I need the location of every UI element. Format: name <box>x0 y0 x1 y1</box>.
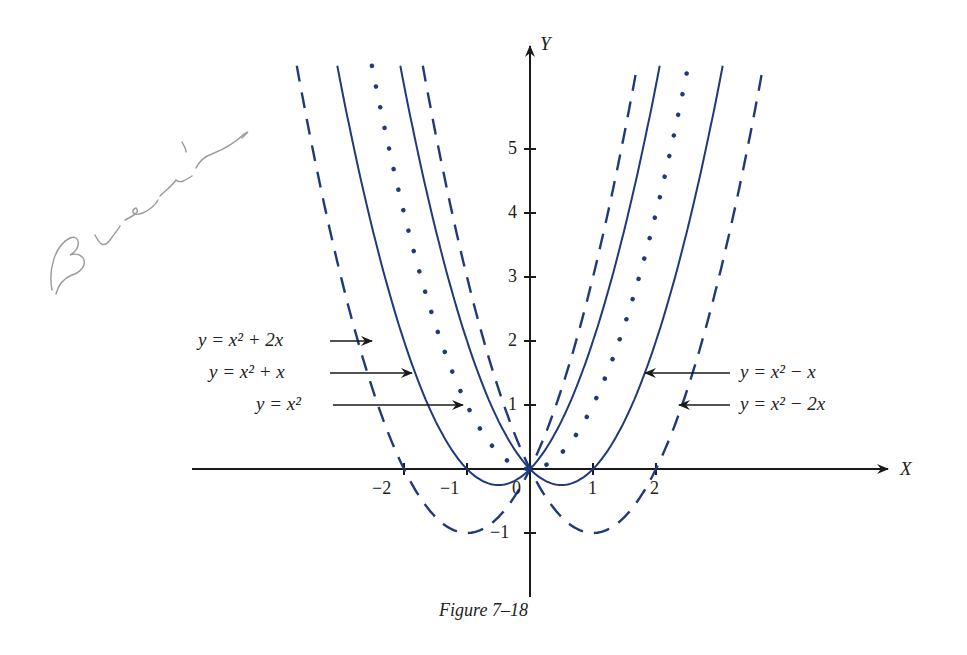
y-tick-label: −1 <box>490 522 509 543</box>
x-tick-label: 2 <box>650 478 659 499</box>
y-tick-label: 3 <box>508 266 517 287</box>
chart-plot-area <box>0 0 967 655</box>
curve-x-2-2x <box>423 66 763 533</box>
figure-caption: Figure 7–18 <box>0 600 967 621</box>
x-tick-label: −1 <box>440 478 459 499</box>
legend-label-x2: y = x² <box>256 393 301 415</box>
legend-label-x2-plus-2x: y = x² + 2x <box>198 329 283 351</box>
legend-label-x2-minus-2x: y = x² − 2x <box>740 393 825 415</box>
x-axis-label: X <box>900 458 912 480</box>
x-tick-label: 0 <box>512 478 521 499</box>
legend-label-x2-minus-x: y = x² − x <box>740 361 816 383</box>
x-tick-label: −2 <box>372 478 391 499</box>
curve-x-2-2x <box>297 66 637 533</box>
y-tick-label: 4 <box>508 202 517 223</box>
legend-label-x2-plus-x: y = x² + x <box>209 361 285 383</box>
handwritten-signature <box>51 132 248 294</box>
x-tick-label: 1 <box>588 478 597 499</box>
y-tick-label: 5 <box>508 138 517 159</box>
y-tick-label: 2 <box>508 330 517 351</box>
y-tick-label: 1 <box>508 394 517 415</box>
y-axis-label: Y <box>540 33 551 55</box>
